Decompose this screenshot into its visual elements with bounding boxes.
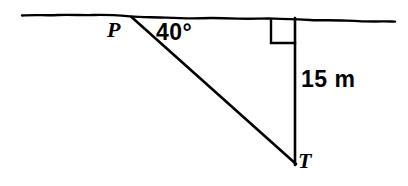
point-label-p: P [107,19,120,41]
point-label-t: T [298,150,311,172]
geometry-diagram: P T 40° 15 m [0,0,408,186]
length-label-15-m: 15 m [301,68,355,91]
right-angle-marker [271,19,295,43]
diagram-canvas [0,0,408,186]
ground-line [22,15,395,22]
angle-label-40-degrees: 40° [156,21,192,44]
